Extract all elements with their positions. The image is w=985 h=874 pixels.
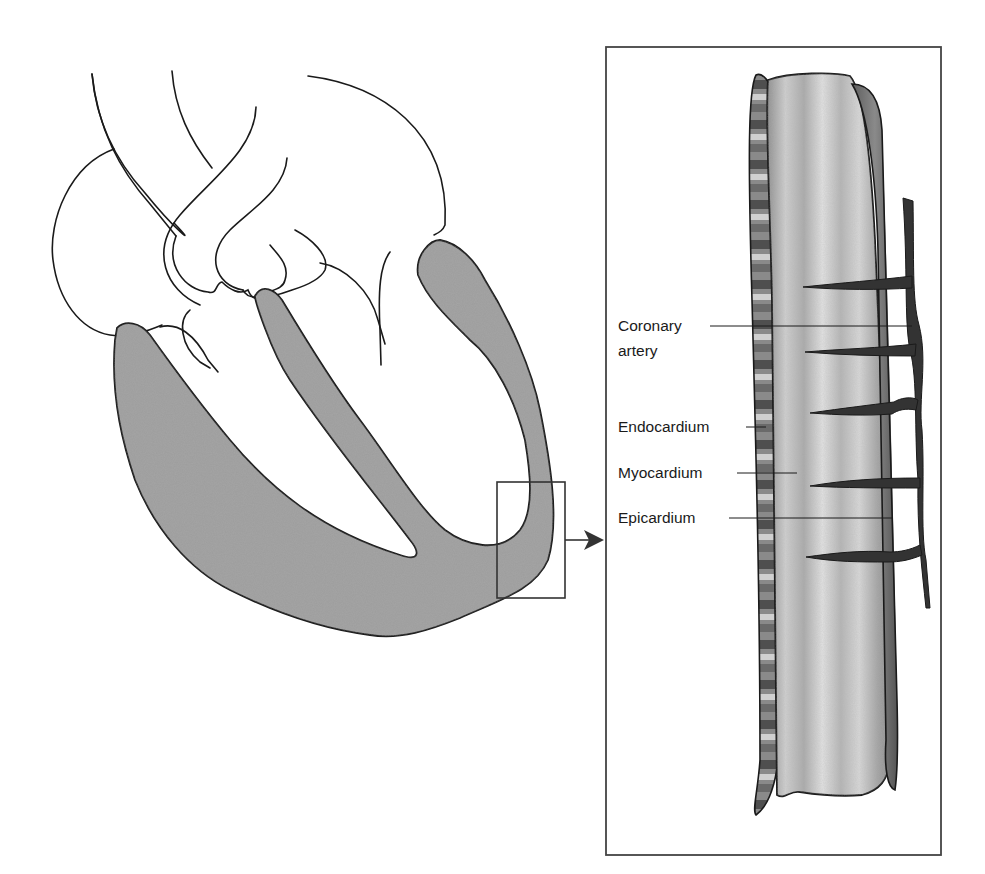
heart-wall-diagram: Coronary artery Endocardium Myocardium E… (0, 0, 985, 874)
heart-illustration (52, 71, 445, 372)
vessel-right-line (164, 107, 256, 305)
label-myocardium-text: Myocardium (618, 464, 702, 481)
aorta-left-line (92, 74, 185, 235)
label-coronary-artery-line2: artery (618, 342, 658, 359)
ventricular-wall (114, 240, 553, 636)
label-coronary-artery-line1: Coronary (618, 317, 682, 334)
pulmonary-line (172, 71, 212, 168)
mitral-leaflet (320, 263, 385, 344)
arrow-icon (565, 530, 604, 550)
vessel-curve (216, 158, 287, 290)
wall-cross-section (749, 73, 897, 815)
left-atrium (308, 76, 445, 235)
right-atrium (52, 149, 162, 336)
label-endocardium-text: Endocardium (618, 418, 709, 435)
label-epicardium-text: Epicardium (618, 509, 696, 526)
